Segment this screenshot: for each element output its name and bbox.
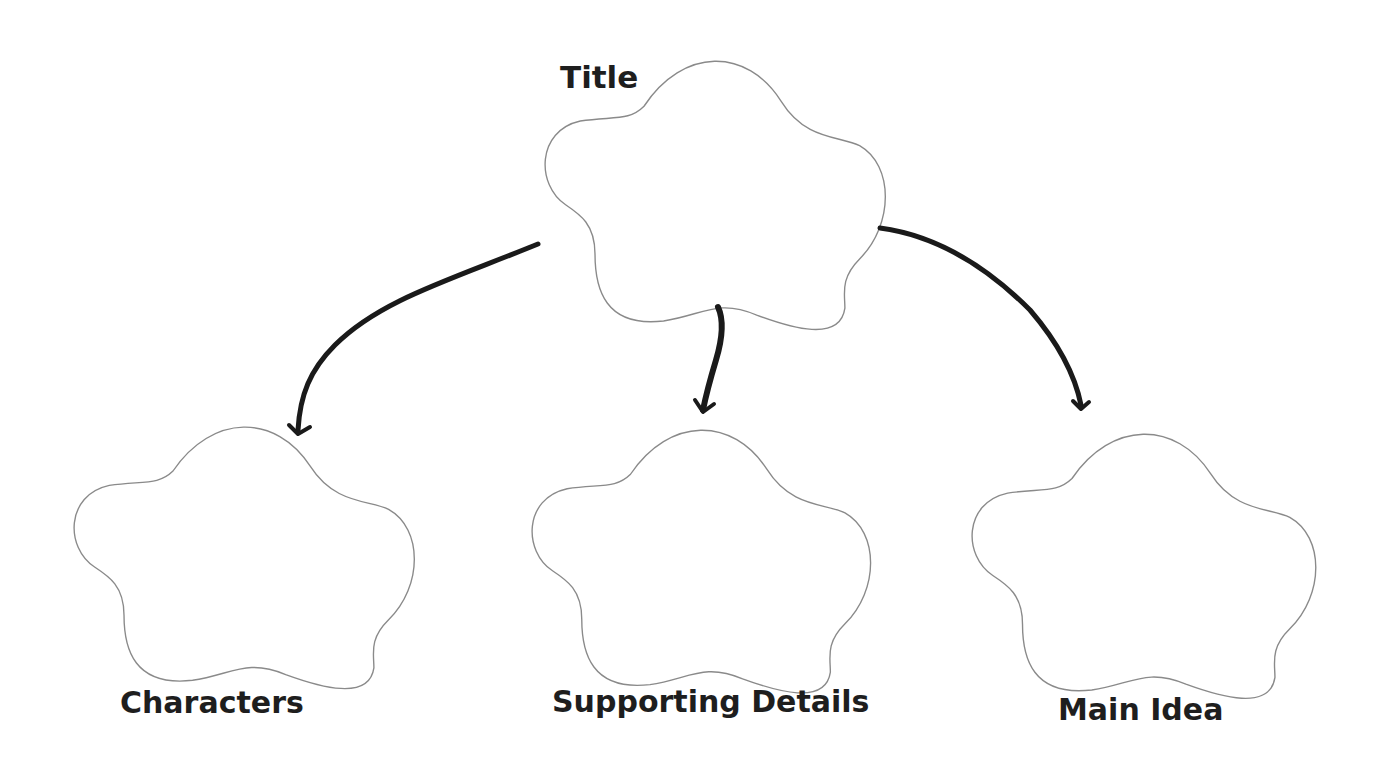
label-characters: Characters bbox=[120, 688, 304, 718]
arrow-title-to-characters bbox=[289, 244, 538, 434]
node-characters-shape[interactable] bbox=[74, 427, 414, 688]
node-title-shape[interactable] bbox=[545, 61, 885, 329]
diagram-canvas bbox=[0, 0, 1384, 766]
label-supporting-details: Supporting Details bbox=[552, 687, 869, 717]
arrow-title-to-main-idea bbox=[880, 228, 1089, 409]
node-supporting-details-shape[interactable] bbox=[532, 430, 870, 693]
label-main-idea: Main Idea bbox=[1058, 695, 1223, 725]
label-title: Title bbox=[560, 62, 638, 93]
arrow-title-to-supporting-details bbox=[695, 307, 722, 412]
node-main-idea-shape[interactable] bbox=[972, 434, 1316, 698]
